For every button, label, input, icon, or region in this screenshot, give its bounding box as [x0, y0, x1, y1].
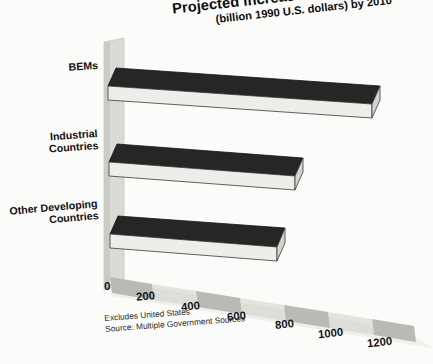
bar-industrial-countries: [109, 144, 303, 190]
chart-container: Projected Increases in World Imports (bi…: [0, 0, 433, 364]
bar-other-developing-countries: [110, 216, 285, 261]
xtick-0: 0: [104, 280, 111, 292]
xtick-800: 800: [274, 317, 294, 331]
bar-bems: [108, 68, 380, 118]
xtick-200: 200: [136, 289, 156, 303]
